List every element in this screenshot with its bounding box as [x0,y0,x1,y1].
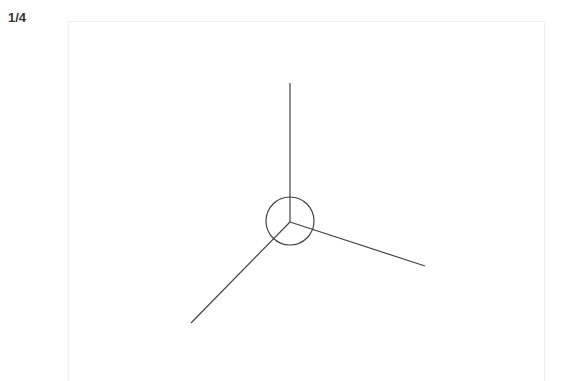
lower-left-line [191,222,290,323]
right-line [290,222,425,266]
